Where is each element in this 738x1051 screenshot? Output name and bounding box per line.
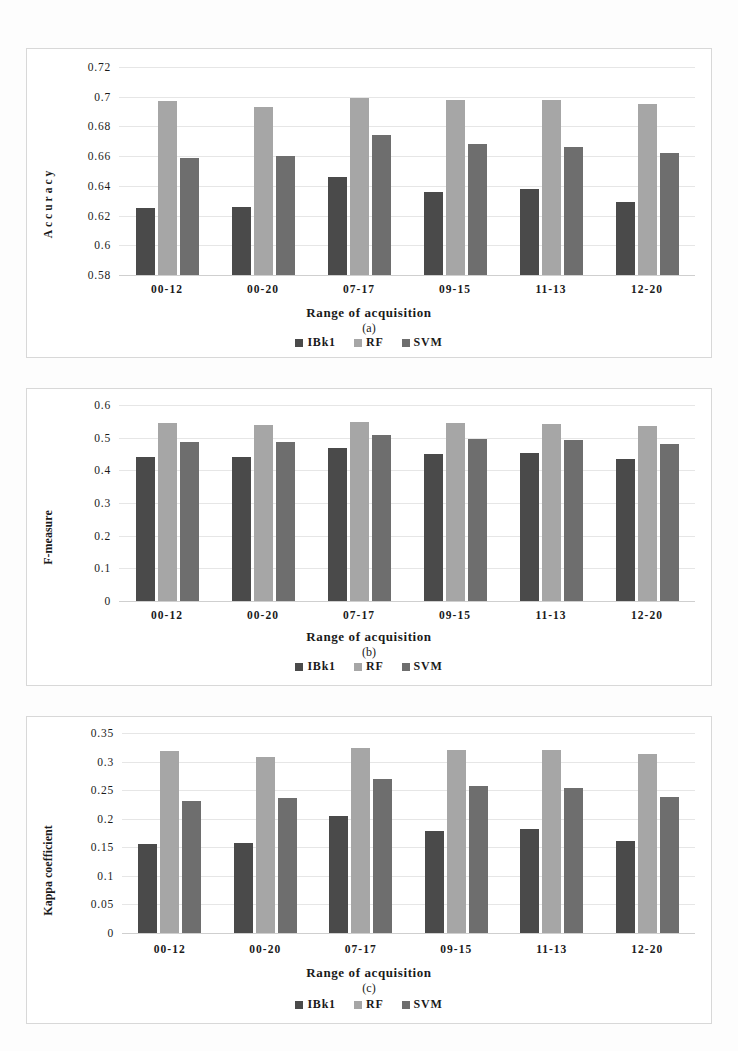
bar-ibk1-09-15	[425, 831, 444, 933]
bar-ibk1-07-17	[328, 177, 347, 275]
x-tick-label: 11-13	[503, 283, 599, 295]
legend-item-rf[interactable]: RF	[354, 997, 384, 1012]
x-tick-label: 07-17	[311, 609, 407, 621]
plot-area-c	[122, 733, 695, 933]
x-tick-label: 11-13	[504, 943, 600, 955]
y-tick-label: 0.58	[88, 269, 111, 281]
bar-ibk1-00-12	[138, 844, 157, 933]
legend-swatch-icon	[295, 663, 303, 671]
bar-ibk1-00-12	[136, 457, 155, 601]
bar-group	[616, 67, 679, 275]
legend-item-rf[interactable]: RF	[354, 335, 384, 350]
y-tick-label: 0	[104, 595, 111, 607]
x-axis-ticks-c: 00-1200-2007-1709-1511-1312-20	[122, 943, 695, 955]
bar-ibk1-00-20	[234, 843, 253, 933]
y-axis-ticks-c: 0.350.30.250.20.150.10.050	[57, 733, 114, 933]
bar-rf-12-20	[638, 426, 657, 601]
legend-item-ibk1[interactable]: IBk1	[295, 659, 336, 674]
bar-svm-00-20	[276, 442, 295, 601]
plot-wrapper-b: F-measure 0.60.50.40.30.20.10 00-1200-20…	[27, 389, 711, 685]
panel-caption-a: (a)	[27, 321, 711, 336]
legend-swatch-icon	[402, 663, 410, 671]
y-axis-label-b-text: F-measure	[41, 510, 56, 564]
bar-group	[520, 67, 583, 275]
y-tick-label: 0.64	[88, 180, 111, 192]
figure-page: Accuracy 0.720.70.680.660.640.620.60.58 …	[0, 0, 738, 1051]
y-tick-label: 0.6	[94, 239, 111, 251]
bar-svm-00-12	[180, 158, 199, 275]
legend-swatch-icon	[354, 1001, 362, 1009]
x-tick-label: 12-20	[599, 283, 695, 295]
legend-label: IBk1	[307, 997, 336, 1012]
plot-wrapper-c: Kappa coefficient 0.350.30.250.20.150.10…	[27, 717, 711, 1023]
gridline	[122, 933, 695, 934]
legend-label: SVM	[414, 659, 443, 674]
y-tick-label: 0.72	[88, 61, 111, 73]
bar-group	[424, 67, 487, 275]
plot-area-b	[119, 405, 695, 601]
legend-label: SVM	[414, 335, 443, 350]
y-tick-label: 0	[107, 927, 114, 939]
y-tick-label: 0.35	[91, 727, 114, 739]
bar-rf-07-17	[350, 98, 369, 275]
bar-svm-07-17	[373, 779, 392, 933]
legend-label: IBk1	[307, 335, 336, 350]
bar-ibk1-09-15	[424, 192, 443, 275]
y-tick-label: 0.1	[97, 870, 114, 882]
bar-svm-12-20	[660, 797, 679, 933]
bar-group	[328, 67, 391, 275]
bar-ibk1-12-20	[616, 459, 635, 601]
x-tick-label: 00-20	[215, 609, 311, 621]
bar-rf-12-20	[638, 754, 657, 933]
bar-rf-00-20	[254, 425, 273, 601]
bar-group	[520, 733, 583, 933]
bar-svm-12-20	[660, 153, 679, 275]
bar-rf-11-13	[542, 750, 561, 933]
bar-rf-11-13	[542, 100, 561, 275]
y-tick-label: 0.5	[94, 432, 111, 444]
legend-swatch-icon	[295, 1001, 303, 1009]
y-tick-label: 0.1	[94, 562, 111, 574]
legend-label: RF	[366, 335, 384, 350]
bar-ibk1-11-13	[520, 189, 539, 275]
bar-group	[138, 733, 201, 933]
legend-item-svm[interactable]: SVM	[402, 335, 443, 350]
y-axis-label-c-text: Kappa coefficient	[41, 825, 56, 915]
bar-ibk1-12-20	[616, 202, 635, 275]
x-axis-title-c: Range of acquisition	[27, 965, 711, 981]
bar-rf-09-15	[446, 100, 465, 275]
y-tick-label: 0.2	[97, 813, 114, 825]
legend-label: RF	[366, 659, 384, 674]
bar-svm-09-15	[468, 439, 487, 601]
y-axis-ticks-b: 0.60.50.40.30.20.10	[57, 405, 111, 601]
x-tick-label: 00-12	[119, 609, 215, 621]
y-tick-label: 0.68	[88, 120, 111, 132]
panel-caption-c: (c)	[27, 981, 711, 996]
bar-group	[616, 733, 679, 933]
bar-group	[232, 405, 295, 601]
bar-rf-09-15	[447, 750, 466, 933]
legend-item-svm[interactable]: SVM	[402, 997, 443, 1012]
legend-item-svm[interactable]: SVM	[402, 659, 443, 674]
x-tick-label: 00-20	[218, 943, 314, 955]
legend-label: SVM	[414, 997, 443, 1012]
bar-rf-00-20	[254, 107, 273, 275]
y-tick-label: 0.4	[94, 464, 111, 476]
bar-svm-07-17	[372, 135, 391, 275]
y-tick-label: 0.66	[88, 150, 111, 162]
bar-ibk1-00-20	[232, 457, 251, 601]
legend-item-ibk1[interactable]: IBk1	[295, 997, 336, 1012]
bar-rf-00-12	[158, 423, 177, 601]
bar-ibk1-09-15	[424, 454, 443, 601]
bar-group	[234, 733, 297, 933]
legend-item-ibk1[interactable]: IBk1	[295, 335, 336, 350]
x-tick-label: 00-20	[215, 283, 311, 295]
legend-c: IBk1RFSVM	[27, 997, 711, 1012]
plot-wrapper-a: Accuracy 0.720.70.680.660.640.620.60.58 …	[27, 49, 711, 357]
bar-rf-09-15	[446, 423, 465, 601]
x-tick-label: 11-13	[503, 609, 599, 621]
bar-svm-11-13	[564, 788, 583, 933]
legend-b: IBk1RFSVM	[27, 659, 711, 674]
x-tick-label: 12-20	[600, 943, 696, 955]
legend-item-rf[interactable]: RF	[354, 659, 384, 674]
